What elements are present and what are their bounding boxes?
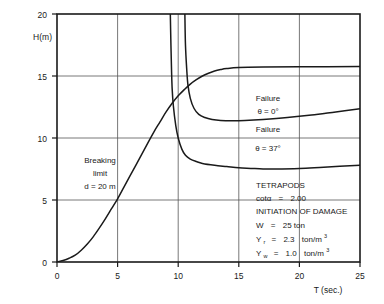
legend-gamma-w-value: 1.0 — [286, 249, 298, 258]
failure0-annotation-line1: Failure — [256, 94, 281, 103]
legend-weight-label: W — [256, 221, 264, 230]
legend-material: TETRAPODS — [256, 181, 305, 190]
y-tick-label-20: 20 — [38, 10, 48, 20]
legend-gamma-r-label: Y — [256, 235, 262, 244]
legend-slope-value: 2.00 — [290, 194, 306, 203]
breaking-annotation-line1: Breaking — [84, 156, 116, 165]
x-tick-label-10: 10 — [173, 271, 183, 281]
y-tick-label-10: 10 — [38, 134, 48, 144]
legend-slope-label: cotα — [256, 194, 272, 203]
legend-gamma-w-label: Y — [256, 249, 262, 258]
legend-gamma-w-unit: ton/m — [304, 249, 324, 258]
legend-weight-value: 25 ton — [283, 221, 305, 230]
legend-gamma-r-exponent: 3 — [324, 233, 327, 239]
legend-gamma-w-subscript: w — [262, 253, 267, 259]
x-tick-label-5: 5 — [115, 271, 120, 281]
legend-gamma-r-eq: = — [272, 235, 277, 244]
legend-weight-eq: = — [271, 221, 276, 230]
failure37-annotation-line2: θ = 37° — [255, 144, 281, 153]
legend-gamma-w-exponent: 3 — [326, 247, 329, 253]
y-tick-label-5: 5 — [42, 196, 47, 206]
failure0-annotation-line2: θ = 0° — [257, 107, 278, 116]
x-tick-label-20: 20 — [295, 271, 305, 281]
legend-slope-eq: = — [279, 194, 284, 203]
x-tick-label-0: 0 — [55, 271, 60, 281]
legend-gamma-r-subscript: r — [263, 239, 265, 245]
y-tick-label-15: 15 — [38, 72, 48, 82]
y-tick-label-0: 0 — [42, 258, 47, 268]
chart-figure: 20 15 10 5 0 0 5 10 15 20 25 H(m) T (sec… — [0, 0, 384, 304]
y-axis-label: H(m) — [33, 32, 52, 42]
legend-gamma-r-unit: ton/m — [302, 235, 322, 244]
x-tick-label-25: 25 — [355, 271, 365, 281]
legend-gamma-w-eq: = — [274, 249, 279, 258]
x-tick-label-15: 15 — [234, 271, 244, 281]
chart-svg: 20 15 10 5 0 0 5 10 15 20 25 H(m) T (sec… — [0, 0, 384, 304]
legend-slope-row: cotα = 2.00 — [256, 194, 307, 203]
x-axis-label: T (sec.) — [314, 285, 343, 295]
failure37-annotation-line1: Failure — [256, 125, 281, 134]
legend-criterion: INITIATION OF DAMAGE — [256, 207, 347, 216]
legend-gamma-r-value: 2.3 — [283, 235, 295, 244]
breaking-annotation-line3: d = 20 m — [84, 182, 116, 191]
breaking-annotation-line2: limit — [93, 169, 108, 178]
